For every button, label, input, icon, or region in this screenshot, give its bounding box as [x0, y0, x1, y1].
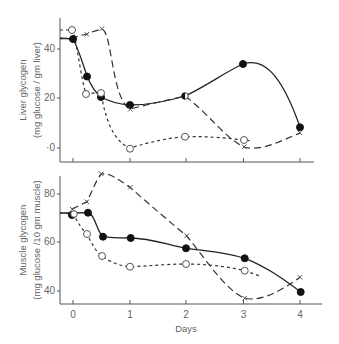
xtick-4: 4	[297, 309, 303, 320]
bottom-ytick-80: 80	[44, 188, 56, 199]
glycogen-figure: 40 20 ·0 Liver glycogen (mg glucose / gm…	[0, 0, 339, 344]
bottom-x-ticks	[73, 300, 300, 304]
top-ytick-40: 40	[44, 43, 56, 54]
top-x-ticks	[73, 158, 300, 162]
bottom-ytick-40: 40	[44, 285, 56, 296]
top-ytick-0: ·0	[46, 142, 55, 153]
liver-glycogen-panel: 40 20 ·0 Liver glycogen (mg glucose / gm…	[17, 18, 314, 162]
bottom-y-units: (mg glucose /10 gm muscle)	[31, 180, 42, 299]
bottom-filled-markers	[69, 209, 305, 295]
top-y-label: Liver glycogen	[17, 59, 28, 120]
top-series-cross-line	[60, 29, 300, 148]
top-filled-markers	[70, 36, 304, 131]
xtick-1: 1	[127, 309, 133, 320]
xtick-2: 2	[183, 309, 189, 320]
bottom-y-axis	[60, 176, 322, 304]
muscle-glycogen-panel: 80 60 40 Muscle glycogen (mg glucose /10…	[17, 172, 322, 335]
xtick-3: 3	[241, 309, 247, 320]
xtick-0: 0	[70, 309, 76, 320]
bottom-y-label: Muscle glycogen	[17, 205, 28, 276]
top-series-open-line	[60, 30, 252, 148]
bottom-ytick-60: 60	[44, 236, 56, 247]
top-y-axis	[60, 18, 314, 162]
top-open-markers	[69, 27, 248, 153]
bottom-series-open-line	[60, 213, 260, 276]
top-ytick-20: 20	[44, 92, 56, 103]
top-series-filled-line	[60, 38, 300, 127]
top-y-units: (mg glucose / gm liver)	[31, 42, 42, 138]
bottom-series-filled-line	[60, 213, 301, 292]
x-axis-label: Days	[175, 323, 197, 334]
